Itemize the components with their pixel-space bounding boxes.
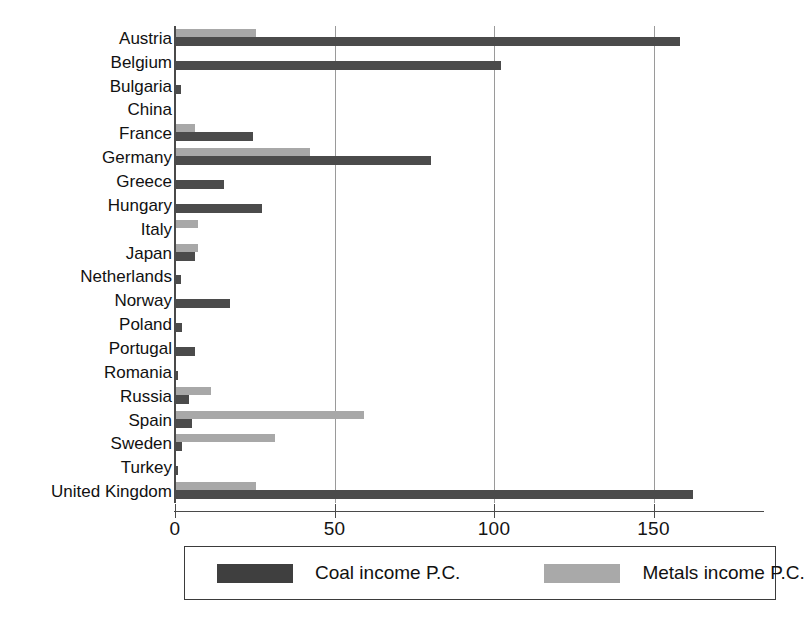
metals-bar — [176, 148, 310, 156]
bar-row: Italy — [0, 217, 808, 241]
coal-bar — [176, 204, 262, 213]
category-label-china: China — [128, 101, 172, 118]
category-label-portugal: Portugal — [109, 340, 172, 357]
metals-bar — [176, 244, 198, 252]
bar-row: Norway — [0, 288, 808, 312]
coal-bar — [176, 37, 680, 46]
category-label-france: France — [119, 125, 172, 142]
coal-bar — [176, 180, 224, 189]
metals-bar — [176, 220, 198, 228]
coal-bar — [176, 323, 182, 332]
x-axis-line — [174, 511, 764, 512]
coal-bar — [176, 156, 431, 165]
coal-bar — [176, 347, 195, 356]
category-label-united-kingdom: United Kingdom — [51, 483, 172, 500]
category-label-belgium: Belgium — [111, 54, 172, 71]
category-label-hungary: Hungary — [108, 197, 172, 214]
legend-item-metals: Metals income P.C. — [544, 562, 804, 584]
category-label-romania: Romania — [104, 364, 172, 381]
bar-row: Japan — [0, 241, 808, 265]
metals-swatch-icon — [544, 564, 620, 583]
bar-row: Spain — [0, 408, 808, 432]
x-tick-label-150: 150 — [637, 518, 670, 540]
legend-item-coal: Coal income P.C. — [217, 562, 460, 584]
bar-row: United Kingdom — [0, 479, 808, 503]
x-tick-label-50: 50 — [324, 518, 346, 540]
coal-bar — [176, 442, 182, 451]
category-label-turkey: Turkey — [121, 459, 172, 476]
coal-bar — [176, 371, 178, 380]
x-tick-label-100: 100 — [478, 518, 511, 540]
x-tick-label-0: 0 — [170, 518, 181, 540]
category-label-poland: Poland — [119, 316, 172, 333]
bar-row: Greece — [0, 169, 808, 193]
category-label-sweden: Sweden — [111, 435, 172, 452]
category-label-italy: Italy — [141, 221, 172, 238]
x-tick-50 — [335, 504, 336, 518]
coal-bar — [176, 275, 181, 284]
coal-bar — [176, 252, 195, 261]
coal-swatch-icon — [217, 564, 293, 583]
bar-row: France — [0, 121, 808, 145]
bar-chart: 050100150 AustriaBelgiumBulgariaChinaFra… — [0, 0, 808, 622]
bar-row: Portugal — [0, 336, 808, 360]
coal-bar — [176, 490, 693, 499]
bar-row: Netherlands — [0, 265, 808, 289]
bar-row: Russia — [0, 384, 808, 408]
coal-bar — [176, 85, 181, 94]
bar-row: China — [0, 98, 808, 122]
bar-row: Hungary — [0, 193, 808, 217]
category-label-norway: Norway — [114, 292, 172, 309]
bar-row: Bulgaria — [0, 74, 808, 98]
bar-row: Germany — [0, 145, 808, 169]
coal-bar — [176, 395, 189, 404]
bar-row: Sweden — [0, 431, 808, 455]
metals-bar — [176, 387, 211, 395]
category-label-japan: Japan — [126, 245, 172, 262]
category-label-greece: Greece — [116, 173, 172, 190]
legend-label-metals: Metals income P.C. — [642, 562, 804, 584]
bar-row: Belgium — [0, 50, 808, 74]
x-tick-100 — [494, 504, 495, 518]
coal-bar — [176, 299, 230, 308]
metals-bar — [176, 482, 256, 490]
category-label-netherlands: Netherlands — [80, 268, 172, 285]
category-label-bulgaria: Bulgaria — [110, 78, 172, 95]
category-label-germany: Germany — [102, 149, 172, 166]
coal-bar — [176, 132, 253, 141]
bar-row: Turkey — [0, 455, 808, 479]
chart-legend: Coal income P.C. Metals income P.C. — [184, 546, 776, 600]
bar-row: Austria — [0, 26, 808, 50]
coal-bar — [176, 466, 178, 475]
coal-bar — [176, 61, 501, 70]
metals-bar — [176, 434, 275, 442]
bar-row: Romania — [0, 360, 808, 384]
category-label-austria: Austria — [119, 30, 172, 47]
metals-bar — [176, 29, 256, 37]
x-tick-0 — [175, 504, 176, 518]
metals-bar — [176, 411, 364, 419]
category-label-russia: Russia — [120, 388, 172, 405]
metals-bar — [176, 124, 195, 132]
category-label-spain: Spain — [129, 412, 172, 429]
x-tick-150 — [654, 504, 655, 518]
coal-bar — [176, 419, 192, 428]
legend-label-coal: Coal income P.C. — [315, 562, 460, 584]
bar-row: Poland — [0, 312, 808, 336]
